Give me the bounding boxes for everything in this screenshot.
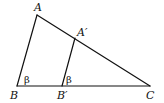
label-A: A <box>33 1 42 14</box>
segment-AC <box>37 15 150 86</box>
label-B: B <box>9 89 18 102</box>
label-C: C <box>146 89 155 102</box>
label-A-prime: A′ <box>76 26 88 39</box>
angle-label-B: β <box>24 74 30 85</box>
similar-triangles-diagram: A B B′ A′ C β β <box>0 0 164 103</box>
angle-label-B-prime: β <box>66 74 72 85</box>
label-B-prime: B′ <box>56 89 68 102</box>
